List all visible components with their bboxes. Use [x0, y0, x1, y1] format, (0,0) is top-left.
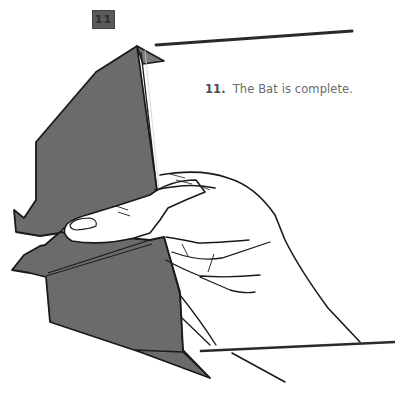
- wrist-line: [232, 353, 285, 382]
- step-number: 11.: [205, 82, 226, 96]
- step-caption: 11.The Bat is complete.: [205, 82, 353, 96]
- motion-line-top: [156, 31, 352, 45]
- instruction-page: 11 11.The Bat is complete.: [0, 0, 395, 403]
- motion-line-bottom: [201, 342, 395, 351]
- step-caption-text: The Bat is complete.: [233, 82, 353, 96]
- origami-bat-illustration: [0, 0, 395, 403]
